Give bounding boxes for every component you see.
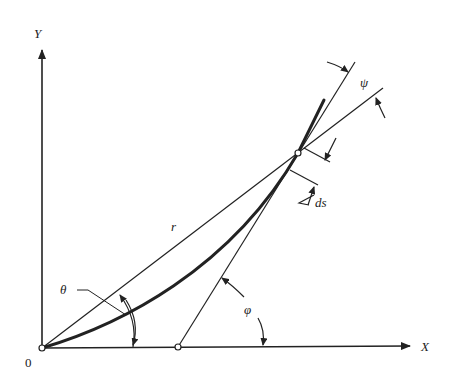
psi-label: ψ xyxy=(360,75,369,90)
psi-angle-marker xyxy=(327,62,385,118)
curve-point-p xyxy=(295,150,301,156)
phi-angle-marker xyxy=(222,278,263,345)
ds-dimension-marker xyxy=(290,138,336,205)
phi-label: φ xyxy=(244,302,251,317)
origin-label: 0 xyxy=(25,355,32,370)
radius-label: r xyxy=(171,219,177,234)
origin-point xyxy=(39,345,45,351)
tangent-line xyxy=(178,62,355,347)
theta-label: θ xyxy=(60,282,67,297)
diagram-canvas: Y X 0 r θ φ ψ ds xyxy=(0,0,461,376)
y-axis-label: Y xyxy=(34,26,43,41)
x-axis-label: X xyxy=(420,339,430,354)
radius-vector-line xyxy=(42,88,383,348)
ds-label: ds xyxy=(315,195,327,210)
x-axis xyxy=(42,346,410,348)
tangent-intercept-point xyxy=(175,344,181,350)
polar-curve xyxy=(42,100,324,348)
